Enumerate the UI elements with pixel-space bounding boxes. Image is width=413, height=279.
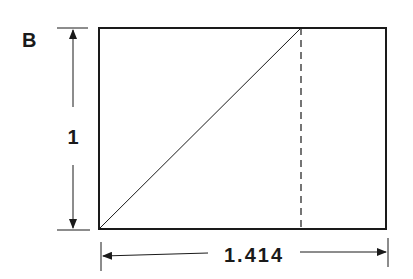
panel-label: B [22, 29, 36, 51]
rectangle [99, 28, 386, 229]
width-label: 1.414 [224, 244, 284, 266]
diagonal-line [99, 28, 301, 229]
width-arrow-left [103, 253, 208, 256]
diagram: B 1 1.414 [0, 0, 413, 279]
height-label: 1 [67, 126, 78, 148]
